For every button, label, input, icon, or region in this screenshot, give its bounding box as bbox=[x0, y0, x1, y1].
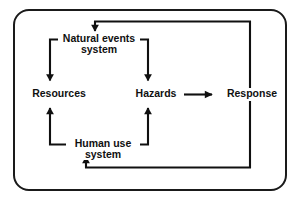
node-response: Response bbox=[221, 88, 283, 99]
node-natural-events-line2: system bbox=[81, 43, 117, 55]
diagram-canvas: Natural events system Resources Hazards … bbox=[0, 0, 305, 205]
node-natural-events-system: Natural events system bbox=[58, 33, 140, 55]
diagram-connectors bbox=[0, 0, 305, 205]
node-hazards: Hazards bbox=[128, 88, 184, 99]
node-human-use-system: Human use system bbox=[66, 138, 140, 160]
node-resources: Resources bbox=[26, 88, 92, 99]
node-human-use-line2: system bbox=[85, 148, 121, 160]
